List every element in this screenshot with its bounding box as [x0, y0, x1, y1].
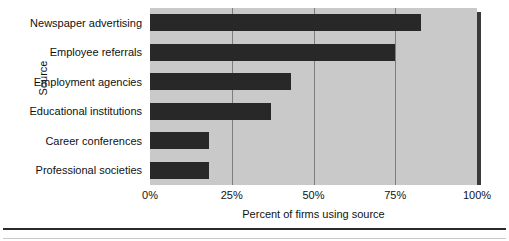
x-axis-tick-label: 0%	[142, 189, 158, 201]
category-label: Educational institutions	[20, 105, 146, 117]
x-axis-tick-label: 100%	[463, 189, 491, 201]
category-label-column: Newspaper advertising Employee referrals…	[20, 8, 146, 185]
category-label: Employment agencies	[20, 76, 146, 88]
plot-area	[150, 8, 477, 185]
bar	[150, 73, 291, 90]
category-label: Employee referrals	[20, 46, 146, 58]
footer-divider	[3, 228, 506, 230]
bar-row	[150, 44, 477, 61]
bar	[150, 103, 271, 120]
bar	[150, 132, 209, 149]
x-axis-tick-label: 25%	[221, 189, 243, 201]
bar-row	[150, 14, 477, 31]
bar-row	[150, 103, 477, 120]
bar-row	[150, 73, 477, 90]
category-label: Career conferences	[20, 135, 146, 147]
x-axis-tick-label: 50%	[302, 189, 324, 201]
x-axis-tick-label: 75%	[384, 189, 406, 201]
footer-divider-secondary	[3, 238, 506, 239]
x-axis-tick-labels: 0% 25% 50% 75% 100%	[150, 189, 477, 203]
category-label: Professional societies	[20, 164, 146, 176]
category-label: Newspaper advertising	[20, 17, 146, 29]
bar	[150, 14, 421, 31]
bar-row	[150, 132, 477, 149]
bar	[150, 162, 209, 179]
bar	[150, 44, 395, 61]
bar-chart-figure: Source Newspaper advertising Employee re…	[0, 0, 509, 241]
bar-series	[150, 8, 477, 185]
bar-row	[150, 162, 477, 179]
x-axis-title: Percent of firms using source	[150, 208, 477, 220]
